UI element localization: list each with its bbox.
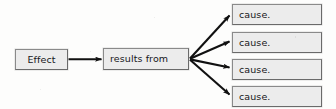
cause-node-4[interactable]: cause. xyxy=(232,86,322,107)
effect-node-label: Effect xyxy=(16,55,67,65)
cause-node-1[interactable]: cause. xyxy=(232,4,322,25)
cause-node-4-label: cause. xyxy=(233,92,270,102)
cause-node-1-label: cause. xyxy=(233,10,270,20)
connector-relation-to-cause-1 xyxy=(190,16,230,59)
cause-node-2[interactable]: cause. xyxy=(232,32,322,53)
connector-relation-to-cause-4 xyxy=(190,60,230,95)
relation-node[interactable]: results from xyxy=(103,48,189,70)
cause-node-2-label: cause. xyxy=(233,38,270,48)
diagram-canvas: Effect results from cause. cause. cause.… xyxy=(0,0,336,109)
connector-relation-to-cause-2 xyxy=(190,42,230,59)
cause-node-3-label: cause. xyxy=(233,65,270,75)
relation-node-label: results from xyxy=(104,54,168,64)
effect-node[interactable]: Effect xyxy=(15,49,68,70)
cause-node-3[interactable]: cause. xyxy=(232,59,322,80)
